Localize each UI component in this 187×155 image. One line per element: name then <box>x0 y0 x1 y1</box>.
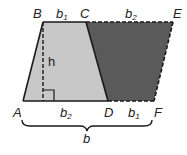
label-ad-b2: b2 <box>60 105 72 121</box>
label-height-h: h <box>48 54 55 69</box>
point-label-d: D <box>104 105 113 120</box>
point-label-c: C <box>80 6 90 21</box>
label-ce-b2: b2 <box>125 6 137 22</box>
point-label-e: E <box>173 6 182 21</box>
label-total-b: b <box>83 131 90 146</box>
point-label-a: A <box>12 105 22 120</box>
point-label-f: F <box>154 105 163 120</box>
label-bc-b1: b1 <box>56 6 68 22</box>
point-label-b: B <box>33 6 42 21</box>
label-df-b1: b1 <box>128 105 140 121</box>
trapezoid-parallelogram-diagram: B C E A D F b1 b2 b2 b1 h b <box>0 0 187 155</box>
brace-total-base <box>22 120 152 131</box>
